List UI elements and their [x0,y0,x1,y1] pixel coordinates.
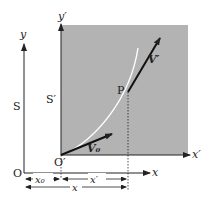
label-v0: V₀ [87,142,101,155]
label-origin-o: O [13,167,22,180]
label-point-p: P [117,84,125,97]
label-frame-s: S [13,100,21,113]
label-y-prime: y′ [57,10,67,23]
dim-label-x-prime: x′ [90,174,99,185]
label-y: y [19,28,27,41]
dim-label-x: x [72,182,78,193]
dim-label-x0: x₀ [35,174,45,185]
label-x: x [152,166,159,179]
label-frame-s-prime: S′ [46,93,57,106]
label-origin-o-prime: O′ [54,156,66,169]
label-v-prime: V′ [148,53,160,66]
diagram-canvas: y y′ S S′ P V′ V₀ O′ O x x′ x₀ x′ x [0,0,216,204]
label-x-prime: x′ [192,148,201,161]
